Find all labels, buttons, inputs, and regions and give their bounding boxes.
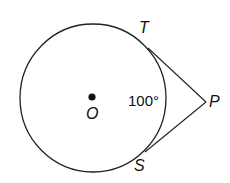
center-point-o: [88, 93, 95, 100]
arc-measure-label: 100°: [128, 93, 159, 108]
diagram-canvas: T S P O 100°: [0, 0, 230, 183]
label-o: O: [86, 106, 98, 122]
tangent-segment-ps: [145, 102, 206, 152]
geometry-figure: [0, 0, 230, 183]
label-p: P: [209, 94, 220, 110]
label-s: S: [134, 158, 145, 174]
label-t: T: [139, 20, 149, 36]
